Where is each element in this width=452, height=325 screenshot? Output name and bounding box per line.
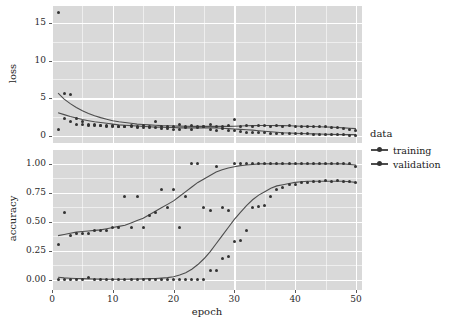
data-point-validation xyxy=(142,126,145,129)
data-point-training xyxy=(336,179,339,182)
data-point-training xyxy=(233,240,236,243)
data-point-validation xyxy=(209,123,212,126)
data-point-training xyxy=(324,179,327,182)
data-point-training xyxy=(142,278,145,281)
data-point-validation xyxy=(215,125,218,128)
y-tick-mark xyxy=(49,222,52,223)
data-point-validation xyxy=(57,128,60,131)
legend-title: data xyxy=(370,128,441,139)
y-tick-label-accuracy: 0.50 xyxy=(6,216,46,226)
x-tick-mark xyxy=(174,290,175,293)
data-point-validation xyxy=(75,123,78,126)
data-point-validation xyxy=(172,188,175,191)
data-point-validation xyxy=(330,126,333,129)
data-point-validation xyxy=(148,125,151,128)
y-tick-label-loss: 5 xyxy=(6,92,46,102)
data-point-training xyxy=(136,278,139,281)
x-tick-mark xyxy=(113,290,114,293)
data-point-validation xyxy=(75,232,78,235)
plot-panel-loss xyxy=(52,6,362,143)
x-tick-label: 20 xyxy=(154,294,194,304)
data-point-validation xyxy=(300,125,303,128)
data-point-training xyxy=(209,128,212,131)
data-point-validation xyxy=(63,211,66,214)
x-tick-mark xyxy=(234,290,235,293)
y-tick-label-loss: 15 xyxy=(6,17,46,27)
data-point-training xyxy=(215,269,218,272)
trend-line-training xyxy=(58,113,356,135)
data-point-validation xyxy=(130,226,133,229)
data-point-validation xyxy=(69,234,72,237)
data-point-training xyxy=(69,93,72,96)
data-point-validation xyxy=(221,125,224,128)
data-point-training xyxy=(190,128,193,131)
data-point-validation xyxy=(306,125,309,128)
y-tick-mark xyxy=(49,251,52,252)
data-point-validation xyxy=(136,195,139,198)
legend-label-training: training xyxy=(393,145,431,156)
data-point-validation xyxy=(130,124,133,127)
data-point-validation xyxy=(87,124,90,127)
data-point-validation xyxy=(154,211,157,214)
data-point-training xyxy=(154,278,157,281)
data-point-training xyxy=(215,129,218,132)
trend-line-training xyxy=(58,181,356,279)
x-tick-label: 50 xyxy=(336,294,376,304)
x-tick-label: 0 xyxy=(32,294,72,304)
data-point-validation xyxy=(142,226,145,229)
legend-label-validation: validation xyxy=(393,159,441,170)
x-tick-label: 10 xyxy=(93,294,133,304)
data-point-validation xyxy=(312,125,315,128)
y-tick-mark xyxy=(49,280,52,281)
x-axis-title: epoch xyxy=(182,306,232,317)
chart-root: loss accuracy epoch data training valida… xyxy=(0,0,452,325)
data-point-validation xyxy=(227,209,230,212)
data-point-training xyxy=(306,181,309,184)
y-tick-mark xyxy=(49,98,52,99)
trend-lines-loss xyxy=(52,6,362,143)
data-point-training xyxy=(227,129,230,132)
y-tick-mark xyxy=(49,193,52,194)
data-point-validation xyxy=(87,232,90,235)
x-tick-mark xyxy=(356,290,357,293)
trend-lines-accuracy xyxy=(52,150,362,290)
data-point-training xyxy=(288,132,291,135)
data-point-validation xyxy=(136,125,139,128)
y-tick-label-accuracy: 0.00 xyxy=(6,274,46,284)
data-point-training xyxy=(348,134,351,137)
data-point-validation xyxy=(154,120,157,123)
data-point-training xyxy=(209,269,212,272)
plot-panel-accuracy xyxy=(52,150,362,290)
data-point-training xyxy=(239,239,242,242)
data-point-validation xyxy=(209,209,212,212)
data-point-training xyxy=(300,181,303,184)
legend-item-validation[interactable]: validation xyxy=(370,157,441,171)
data-point-training xyxy=(69,278,72,281)
data-point-training xyxy=(318,180,321,183)
data-point-training xyxy=(221,257,224,260)
legend-key-line-point-icon xyxy=(370,157,389,171)
x-tick-label: 40 xyxy=(275,294,315,304)
data-point-training xyxy=(288,183,291,186)
data-point-validation xyxy=(294,125,297,128)
data-point-validation xyxy=(251,125,254,128)
y-tick-label-accuracy: 0.25 xyxy=(6,245,46,255)
y-tick-mark xyxy=(49,23,52,24)
data-point-validation xyxy=(215,165,218,168)
data-point-validation xyxy=(166,125,169,128)
y-tick-label-accuracy: 1.00 xyxy=(6,158,46,168)
data-point-validation xyxy=(160,125,163,128)
data-point-training xyxy=(57,278,60,281)
data-point-training xyxy=(63,278,66,281)
x-tick-mark xyxy=(295,290,296,293)
data-point-training xyxy=(294,183,297,186)
x-tick-label: 30 xyxy=(214,294,254,304)
data-point-training xyxy=(130,278,133,281)
data-point-training xyxy=(160,278,163,281)
data-point-validation xyxy=(160,188,163,191)
y-tick-label-loss: 10 xyxy=(6,55,46,65)
y-tick-mark xyxy=(49,61,52,62)
data-point-training xyxy=(227,255,230,258)
data-point-validation xyxy=(233,118,236,121)
legend-item-training[interactable]: training xyxy=(370,143,441,157)
